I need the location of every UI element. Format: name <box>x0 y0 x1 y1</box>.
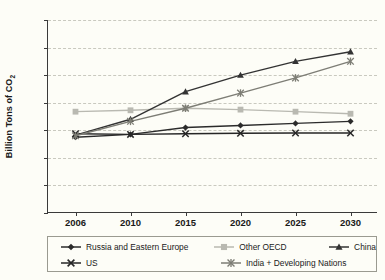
legend-label: India + Developing Nations <box>246 259 346 267</box>
legend-label: Russia and Eastern Europe <box>86 243 188 251</box>
y-tick-mark <box>44 213 48 214</box>
series-russia-and-eastern-europe <box>72 118 353 140</box>
diamond-marker <box>347 118 353 124</box>
series-us <box>72 130 353 138</box>
x-tick-label: 2006 <box>53 217 99 228</box>
square-marker <box>293 109 299 115</box>
triangle-marker-icon <box>328 241 350 253</box>
diamond-marker <box>292 120 298 126</box>
y-axis-title-subscript: 2 <box>9 75 16 79</box>
square-marker <box>221 244 227 250</box>
legend-label: Other OECD <box>239 243 286 251</box>
legend-label: US <box>86 259 98 267</box>
x-tick-label: 2030 <box>328 217 374 228</box>
series-line <box>76 61 351 135</box>
co2-emissions-line-chart: Billion Tons of CO2 02468101214 20062010… <box>0 0 385 280</box>
square-marker <box>73 109 79 115</box>
x-tick-label: 2025 <box>273 217 319 228</box>
diamond-marker <box>237 122 243 128</box>
square-marker <box>348 111 354 117</box>
x-tick-label: 2015 <box>163 217 209 228</box>
triangle-marker <box>347 48 354 54</box>
y-axis-title: Billion Tons of CO2 <box>4 20 18 213</box>
legend-item-russia-and-eastern-europe[interactable]: Russia and Eastern Europe <box>60 239 213 255</box>
x-tick-label: 2010 <box>108 217 154 228</box>
x-tick-label: 2020 <box>218 217 264 228</box>
square-marker <box>128 107 134 113</box>
legend-label: China <box>354 243 376 251</box>
series-india-developing-nations <box>72 58 354 140</box>
legend: Russia and Eastern Europe Other OECD Chi… <box>47 236 377 272</box>
legend-row-1: Russia and Eastern Europe Other OECD Chi… <box>48 239 376 255</box>
legend-item-china[interactable]: China <box>328 239 376 255</box>
legend-item-other-oecd[interactable]: Other OECD <box>213 239 328 255</box>
diamond-marker <box>182 124 188 130</box>
series-line <box>76 108 351 114</box>
series-china <box>72 48 354 138</box>
asterisk-marker-icon <box>220 257 242 269</box>
legend-row-2: US India + Developing Nations <box>48 255 376 271</box>
legend-item-india-developing-nations[interactable]: India + Developing Nations <box>220 255 346 271</box>
diamond-marker <box>68 244 75 251</box>
legend-item-us[interactable]: US <box>60 255 220 271</box>
square-marker-icon <box>213 241 235 253</box>
square-marker <box>238 107 244 113</box>
diamond-marker-icon <box>60 241 82 253</box>
series-other-oecd <box>73 105 354 116</box>
series-layer <box>48 20 378 213</box>
x-marker-icon <box>60 257 82 269</box>
plot-area: 02468101214 200620102015202020252030 <box>47 20 377 213</box>
y-axis-title-text: Billion Tons of CO <box>4 79 14 159</box>
series-line <box>76 133 351 134</box>
